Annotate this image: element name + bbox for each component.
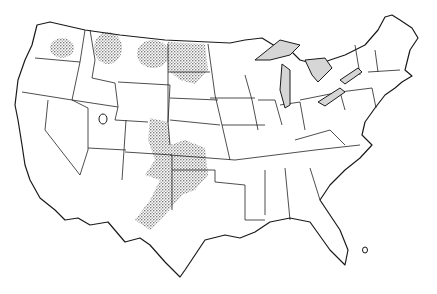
stipple-washington: [50, 38, 74, 58]
lake-okeechobee: [363, 247, 368, 253]
lake-huron: [305, 58, 332, 82]
lake-superior: [255, 40, 300, 60]
great-salt-lake: [99, 114, 107, 124]
lake-michigan: [280, 64, 290, 108]
stipple-southern-plains: [135, 118, 208, 230]
us-map-svg: [0, 0, 437, 294]
stipple-nw-montana: [94, 32, 122, 64]
us-outline: [15, 15, 418, 277]
lake-ontario: [340, 68, 362, 84]
great-lakes: [255, 40, 362, 108]
stipple-ne-montana: [137, 40, 169, 68]
lake-erie: [318, 88, 345, 106]
us-map: [0, 0, 437, 294]
stipple-north-dakota: [167, 42, 208, 84]
state-boundaries: [22, 30, 400, 220]
